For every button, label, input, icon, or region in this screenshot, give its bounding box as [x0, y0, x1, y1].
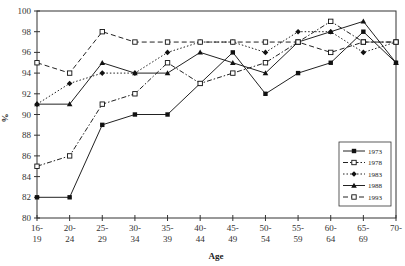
data-point: [133, 92, 137, 96]
legend-label: 1993: [368, 194, 383, 202]
x-tick-label: 55-: [292, 223, 304, 233]
data-point: [165, 61, 169, 65]
y-tick-label: 94: [22, 68, 32, 78]
data-point: [35, 195, 39, 199]
x-tick-label: 34: [130, 234, 140, 244]
x-tick-label: 20-: [64, 223, 76, 233]
data-point: [197, 50, 203, 55]
data-point: [35, 61, 39, 65]
x-tick-label: 54: [261, 234, 271, 244]
data-point: [99, 70, 105, 76]
data-point: [165, 40, 169, 44]
legend-label: 1973: [368, 148, 383, 156]
y-tick-label: 98: [22, 27, 32, 37]
x-tick-label: 45-: [227, 223, 239, 233]
data-point: [296, 40, 300, 44]
x-axis-title: Age: [209, 251, 224, 261]
data-point: [394, 40, 398, 44]
data-point: [100, 30, 104, 34]
data-point: [361, 50, 367, 56]
data-point: [329, 19, 333, 23]
x-tick-label: 39: [163, 234, 173, 244]
x-tick-label: 60-: [325, 223, 337, 233]
data-point: [296, 71, 300, 75]
x-tick-label: 70-: [390, 223, 402, 233]
data-point: [263, 92, 267, 96]
legend-marker: [352, 195, 356, 199]
data-point: [67, 154, 71, 158]
series-line: [37, 21, 396, 104]
data-point: [361, 30, 365, 34]
data-point: [231, 50, 235, 54]
x-tick-label: 49: [228, 234, 238, 244]
y-tick-label: 96: [22, 47, 32, 57]
legend-label: 1983: [368, 171, 383, 179]
x-tick-label: 30-: [129, 223, 141, 233]
line-chart: 80828486889092949698100 16-1920-2425-293…: [0, 0, 405, 266]
legend: 19731978198319881993: [339, 142, 391, 206]
data-point: [198, 40, 202, 44]
data-point: [329, 50, 333, 54]
data-point: [231, 40, 235, 44]
data-point: [165, 112, 169, 116]
x-tick-label: 35-: [162, 223, 174, 233]
data-point: [263, 50, 269, 56]
x-tick-label: 69: [359, 234, 369, 244]
y-tick-label: 84: [22, 172, 32, 182]
data-point: [133, 40, 137, 44]
data-point: [263, 40, 267, 44]
data-point: [198, 81, 202, 85]
data-point: [329, 61, 333, 65]
y-axis-title: %: [0, 114, 10, 123]
y-tick-label: 90: [22, 110, 32, 120]
data-point: [100, 102, 104, 106]
data-point: [67, 195, 71, 199]
x-tick-label: 50-: [259, 223, 271, 233]
data-point: [231, 71, 235, 75]
data-point: [263, 61, 267, 65]
x-tick-label: 24: [65, 234, 75, 244]
data-point: [361, 19, 367, 24]
x-tick-label: 29: [98, 234, 108, 244]
data-point: [67, 71, 71, 75]
x-axis: 16-1920-2425-2930-3435-3940-4445-4950-54…: [31, 215, 402, 244]
y-tick-label: 88: [22, 130, 32, 140]
x-tick-label: 64: [326, 234, 336, 244]
y-tick-label: 100: [18, 6, 32, 16]
y-tick-label: 80: [22, 213, 32, 223]
legend-marker: [352, 160, 356, 164]
data-point: [165, 50, 171, 56]
data-point: [67, 81, 73, 87]
y-tick-label: 92: [22, 89, 31, 99]
x-tick-label: 44: [196, 234, 206, 244]
x-tick-label: 65-: [357, 223, 369, 233]
x-tick-label: 19: [33, 234, 43, 244]
legend-label: 1988: [368, 182, 383, 190]
data-point: [133, 112, 137, 116]
legend-label: 1978: [368, 159, 383, 167]
data-point: [35, 164, 39, 168]
series-1988: [34, 19, 399, 107]
data-point: [295, 29, 301, 35]
data-point: [100, 123, 104, 127]
x-tick-label: 40-: [194, 223, 206, 233]
legend-marker: [352, 149, 356, 153]
x-tick-label: 16-: [31, 223, 43, 233]
x-tick-label: 59: [294, 234, 304, 244]
x-tick-label: 25-: [96, 223, 108, 233]
y-tick-label: 82: [22, 192, 31, 202]
data-point: [361, 40, 365, 44]
y-tick-label: 86: [22, 151, 32, 161]
data-point: [99, 60, 105, 65]
